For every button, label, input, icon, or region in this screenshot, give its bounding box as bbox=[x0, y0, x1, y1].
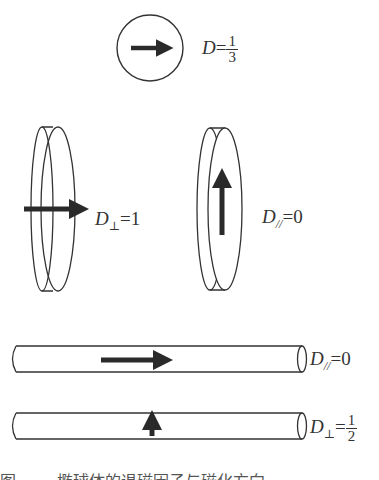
value: 0 bbox=[341, 348, 351, 369]
disc-parallel-label: D//=0 bbox=[262, 206, 303, 228]
fraction: 13 bbox=[226, 34, 238, 65]
equals: = bbox=[330, 348, 341, 369]
numerator: 1 bbox=[346, 413, 358, 429]
sphere-shape bbox=[117, 15, 183, 81]
fraction: 12 bbox=[346, 413, 358, 444]
sphere-label: D=13 bbox=[202, 34, 238, 65]
equals: = bbox=[335, 416, 346, 437]
symbol: D bbox=[262, 206, 276, 227]
denominator: 2 bbox=[346, 429, 358, 444]
disc-parallel-shape bbox=[197, 128, 242, 290]
figure-caption: 图 ······ 椭球体的退磁因子与磁化方向 bbox=[0, 468, 379, 480]
symbol: D bbox=[310, 416, 324, 437]
numerator: 1 bbox=[226, 34, 238, 50]
value: 1 bbox=[131, 208, 141, 229]
value: 0 bbox=[293, 206, 303, 227]
denominator: 3 bbox=[226, 50, 238, 65]
rod-parallel-shape bbox=[13, 346, 307, 372]
rod-parallel-label: D//=0 bbox=[310, 348, 351, 370]
subscript: ⊥ bbox=[324, 427, 335, 441]
disc-perpendicular-label: D⊥=1 bbox=[95, 208, 140, 230]
equals: = bbox=[282, 206, 293, 227]
rod-perpendicular-label: D⊥=12 bbox=[310, 413, 357, 444]
rod-perpendicular-shape bbox=[13, 413, 307, 439]
symbol: D bbox=[95, 208, 109, 229]
subscript: // bbox=[324, 359, 331, 373]
equals: = bbox=[216, 37, 227, 58]
symbol: D bbox=[310, 348, 324, 369]
equals: = bbox=[120, 208, 131, 229]
subscript: // bbox=[276, 217, 283, 231]
subscript: ⊥ bbox=[109, 219, 120, 233]
disc-perpendicular-shape bbox=[24, 127, 75, 291]
symbol: D bbox=[202, 37, 216, 58]
